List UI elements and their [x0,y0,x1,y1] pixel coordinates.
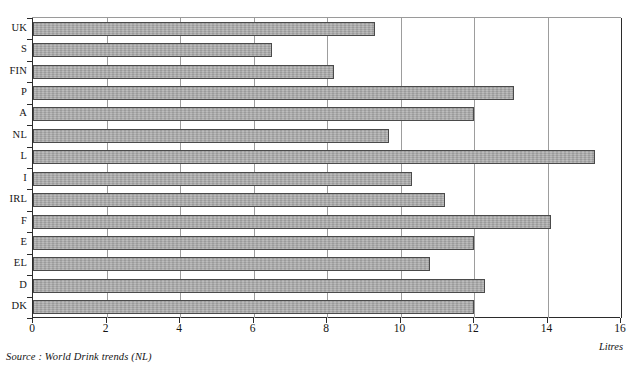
y-axis-tick [27,18,32,19]
y-axis-label-e: E [0,236,27,247]
bar-l[interactable] [33,150,595,164]
bar-row [33,61,621,82]
bar-row [33,211,621,232]
x-axis-tick-mark [32,318,33,323]
bar-row [33,168,621,189]
y-axis-tick [27,168,32,169]
bar-p[interactable] [33,86,514,100]
bar-irl[interactable] [33,193,445,207]
y-axis-label-s: S [0,43,27,54]
bar-fin[interactable] [33,65,334,79]
cropped-header-text: · · · · · · · · · · · [0,0,637,9]
bar-row [33,254,621,275]
bar-row [33,147,621,168]
bar-s[interactable] [33,43,272,57]
x-axis-tick-label-6: 6 [239,322,267,334]
bar-uk[interactable] [33,22,375,36]
y-axis-label-fin: FIN [0,65,27,76]
y-axis-label-irl: IRL [0,193,27,204]
x-axis-tick-mark [547,318,548,323]
y-axis-tick [27,39,32,40]
x-axis-tick-label-8: 8 [312,322,340,334]
bar-a[interactable] [33,107,474,121]
y-axis-label-uk: UK [0,22,27,33]
y-axis-tick [27,189,32,190]
x-axis-unit-label: Litres [599,341,623,352]
y-axis-tick [27,82,32,83]
y-axis-label-dk: DK [0,300,27,311]
x-axis-tick-mark [473,318,474,323]
bar-nl[interactable] [33,129,389,143]
bar-e[interactable] [33,236,474,250]
y-axis-label-d: D [0,279,27,290]
y-axis-label-f: F [0,215,27,226]
plot-area [32,18,620,318]
y-axis-tick [27,147,32,148]
x-axis-tick-mark [253,318,254,323]
bar-i[interactable] [33,172,412,186]
gridline-x-16 [621,18,622,318]
y-axis-tick [27,211,32,212]
x-axis-tick-label-0: 0 [18,322,46,334]
bar-row [33,39,621,60]
source-note: Source : World Drink trends (NL) [6,351,152,362]
y-axis-tick [27,125,32,126]
bar-row [33,82,621,103]
bar-el[interactable] [33,257,430,271]
x-axis-tick-mark [106,318,107,323]
chart-container: · · · · · · · · · · · UKSFINPANLLIIRLFEE… [0,0,637,366]
x-axis-tick-label-14: 14 [533,322,561,334]
bar-row [33,18,621,39]
y-axis-label-p: P [0,86,27,97]
y-axis-label-el: EL [0,257,27,268]
y-axis-tick [27,104,32,105]
bar-row [33,297,621,318]
y-axis-tick [27,61,32,62]
x-axis-tick-label-16: 16 [606,322,634,334]
x-axis-tick-label-10: 10 [386,322,414,334]
bar-f[interactable] [33,215,551,229]
x-axis-tick-mark [620,318,621,323]
x-axis-tick-label-2: 2 [92,322,120,334]
bar-d[interactable] [33,279,485,293]
x-axis-tick-label-4: 4 [165,322,193,334]
bar-row [33,232,621,253]
bar-row [33,104,621,125]
bar-row [33,275,621,296]
x-axis-tick-mark [400,318,401,323]
x-axis-tick-mark [326,318,327,323]
y-axis-label-a: A [0,107,27,118]
x-axis-tick-label-12: 12 [459,322,487,334]
y-axis-label-l: L [0,150,27,161]
bar-dk[interactable] [33,300,474,314]
y-axis-tick [27,232,32,233]
y-axis-label-i: I [0,172,27,183]
x-axis-tick-mark [179,318,180,323]
y-axis-tick [27,254,32,255]
bar-row [33,189,621,210]
y-axis-label-nl: NL [0,129,27,140]
bar-row [33,125,621,146]
y-axis-tick [27,275,32,276]
y-axis-tick [27,297,32,298]
